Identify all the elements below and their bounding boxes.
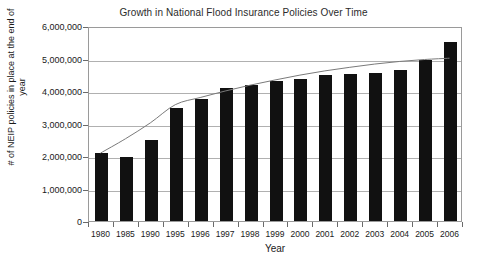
y-tick-label: 3,000,000: [20, 120, 82, 130]
x-tick-mark: [437, 222, 438, 227]
x-tick-mark: [362, 222, 363, 227]
chart-container: Growth in National Flood Insurance Polic…: [0, 0, 487, 264]
x-axis-title: Year: [88, 243, 462, 254]
bar: [145, 140, 158, 221]
y-tick-label: 4,000,000: [20, 87, 82, 97]
x-tick-mark: [163, 222, 164, 227]
bar: [319, 75, 332, 221]
bar: [294, 79, 307, 221]
x-tick-mark: [113, 222, 114, 227]
x-tick-mark: [462, 222, 463, 227]
bar: [170, 108, 183, 221]
bar: [369, 73, 382, 221]
bar: [195, 99, 208, 221]
bar: [245, 85, 258, 222]
x-tick-mark: [138, 222, 139, 227]
bar: [95, 153, 108, 221]
bar: [419, 60, 432, 221]
gridline: [89, 61, 461, 62]
bar: [394, 70, 407, 221]
plot-area: [88, 27, 462, 222]
bar: [220, 88, 233, 221]
chart-title: Growth in National Flood Insurance Polic…: [0, 7, 487, 18]
bar: [270, 81, 283, 221]
y-tick-label: 6,000,000: [20, 22, 82, 32]
bar: [444, 42, 457, 221]
x-tick-mark: [412, 222, 413, 227]
x-tick-mark: [188, 222, 189, 227]
x-tick-mark: [238, 222, 239, 227]
x-tick-mark: [213, 222, 214, 227]
y-tick-label: 1,000,000: [20, 185, 82, 195]
y-tick-label: 5,000,000: [20, 55, 82, 65]
x-tick-mark: [387, 222, 388, 227]
x-tick-mark: [88, 222, 89, 227]
x-tick-mark: [263, 222, 264, 227]
x-tick-label: 2006: [435, 229, 465, 239]
y-tick-label: 2,000,000: [20, 152, 82, 162]
x-tick-mark: [337, 222, 338, 227]
bar: [120, 157, 133, 221]
y-tick-label: 0: [20, 217, 82, 227]
bar: [344, 74, 357, 221]
x-tick-mark: [287, 222, 288, 227]
x-tick-mark: [312, 222, 313, 227]
